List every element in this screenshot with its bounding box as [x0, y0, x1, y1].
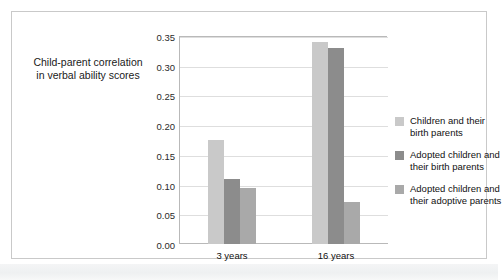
- y-axis-tick-label: 0.00: [157, 240, 176, 251]
- legend-item: Children and theirbirth parents: [395, 115, 503, 138]
- bar: [312, 42, 328, 244]
- legend-label-line-1: Children and their: [410, 115, 485, 127]
- y-axis-tick-label: 0.25: [157, 91, 176, 102]
- y-axis-tick-label: 0.20: [157, 121, 176, 132]
- legend-label: Adopted children andtheir adoptive paren…: [410, 183, 501, 206]
- legend-swatch: [395, 151, 404, 160]
- legend-label-line-2: their birth parents: [410, 161, 500, 173]
- legend-item: Adopted children andtheir adoptive paren…: [395, 183, 503, 206]
- legend-label-line-1: Adopted children and: [410, 149, 500, 161]
- legend-swatch: [395, 185, 404, 194]
- legend-swatch: [395, 117, 404, 126]
- y-axis-title: Child-parent correlation in verbal abili…: [26, 56, 150, 82]
- bar-group: 16 years: [305, 37, 367, 244]
- bar: [240, 188, 256, 244]
- legend-label-line-2: their adoptive parents: [410, 195, 501, 207]
- y-axis-tick-label: 0.30: [157, 61, 176, 72]
- y-axis-title-line-1: Child-parent correlation: [26, 56, 150, 69]
- y-axis-tick-label: 0.10: [157, 180, 176, 191]
- bar: [208, 140, 224, 244]
- chart-legend: Children and theirbirth parentsAdopted c…: [395, 115, 503, 217]
- bar-group: 3 years: [201, 37, 263, 244]
- bar: [344, 202, 360, 244]
- y-axis-tick-label: 0.15: [157, 150, 176, 161]
- bar: [224, 179, 240, 244]
- x-axis-tick-label: 16 years: [318, 250, 354, 261]
- legend-label: Children and theirbirth parents: [410, 115, 485, 138]
- page-scan-strip: [0, 264, 498, 280]
- legend-label-line-2: birth parents: [410, 127, 485, 139]
- chart-figure-frame: Child-parent correlation in verbal abili…: [11, 11, 487, 259]
- plot-area: 0.000.050.100.150.200.250.300.353 years1…: [179, 36, 387, 244]
- legend-item: Adopted children andtheir birth parents: [395, 149, 503, 172]
- y-axis-title-line-2: in verbal ability scores: [26, 69, 150, 82]
- x-axis-tick-label: 3 years: [216, 250, 247, 261]
- legend-label: Adopted children andtheir birth parents: [410, 149, 500, 172]
- legend-label-line-1: Adopted children and: [410, 183, 501, 195]
- bar: [328, 48, 344, 244]
- y-axis-tick-label: 0.05: [157, 210, 176, 221]
- y-axis-tick-label: 0.35: [157, 32, 176, 43]
